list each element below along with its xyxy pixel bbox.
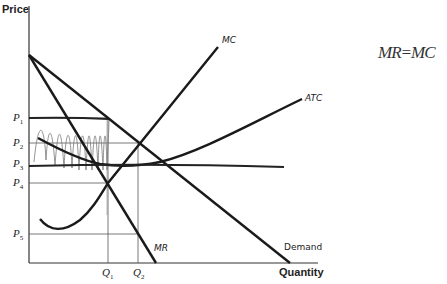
tick-q1: Q1 bbox=[102, 267, 113, 281]
mr-curve bbox=[29, 55, 156, 263]
label-mc: MC bbox=[222, 36, 236, 45]
x-axis-title: Quantity bbox=[279, 267, 324, 278]
label-mr: MR bbox=[154, 244, 168, 253]
p3-handdrawn-line bbox=[29, 165, 284, 167]
tick-p4: P4 bbox=[13, 177, 23, 191]
tick-p2: P2 bbox=[13, 137, 23, 151]
tick-p1: P1 bbox=[13, 112, 23, 126]
demand-curve bbox=[29, 55, 290, 263]
y-axis-title: Price bbox=[2, 4, 29, 15]
tick-p5: P5 bbox=[13, 228, 23, 242]
tick-p3: P3 bbox=[13, 158, 23, 172]
tick-q2: Q2 bbox=[133, 267, 144, 281]
label-demand: Demand bbox=[284, 243, 322, 252]
handwritten-note: MR=MC bbox=[378, 44, 435, 61]
label-atc: ATC bbox=[305, 94, 322, 103]
